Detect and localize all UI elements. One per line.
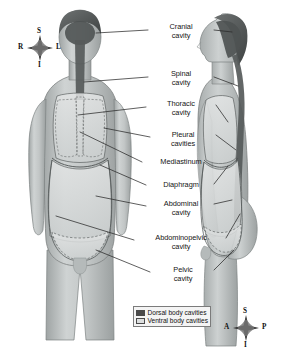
label-pleural-cavities: Pleural cavities	[152, 131, 214, 148]
figure-lateral	[197, 14, 257, 346]
anatomy-diagram: Cranial cavity Spinal cavity Thoracic ca…	[0, 0, 290, 360]
label-pelvic-cavity: Pelvic cavity	[152, 266, 214, 283]
label-abdominal-cavity: Abdominal cavity	[148, 200, 214, 217]
legend-item-ventral: Ventral body cavities	[136, 317, 208, 325]
compass-top-inferior: I	[38, 61, 41, 69]
label-mediastinum: Mediastinum	[144, 158, 218, 167]
label-abdominopelvic-cavity: Abdominopelvic cavity	[136, 234, 226, 251]
label-diaphragm: Diaphragm	[148, 181, 214, 190]
left-arm-anterior	[29, 99, 46, 235]
compass-bottom-superior: S	[243, 307, 247, 315]
compass-rose-top	[27, 35, 53, 61]
groin-anterior	[73, 258, 87, 274]
label-thoracic-cavity: Thoracic cavity	[148, 100, 214, 117]
leader-cranial-left	[96, 30, 148, 33]
abdominal-cavity-outline-anterior	[49, 160, 112, 242]
leg-lateral	[204, 250, 237, 346]
cavity-legend: Dorsal body cavities Ventral body caviti…	[133, 306, 211, 327]
figure-anterior	[29, 10, 132, 340]
compass-bottom-inferior: I	[244, 341, 247, 349]
legend-label-ventral: Ventral body cavities	[148, 317, 208, 324]
label-spinal-cavity: Spinal cavity	[150, 70, 212, 87]
legend-item-dorsal: Dorsal body cavities	[136, 309, 208, 317]
legend-swatch-dorsal	[136, 310, 145, 316]
compass-bottom-posterior: P	[262, 323, 266, 331]
spinal-cavity-shading-anterior	[75, 40, 85, 100]
compass-top-left: L	[56, 43, 61, 51]
legend-swatch-ventral	[136, 318, 145, 324]
thoracic-cavity-outline-anterior	[53, 93, 107, 163]
abdominal-cavity-outline-lateral	[201, 160, 241, 236]
compass-bottom-anterior: A	[224, 323, 229, 331]
compass-top-superior: S	[37, 27, 41, 35]
right-arm-anterior	[114, 99, 131, 235]
legend-label-dorsal: Dorsal body cavities	[148, 309, 207, 316]
compass-top-right: R	[18, 43, 23, 51]
label-cranial-cavity: Cranial cavity	[150, 23, 212, 40]
